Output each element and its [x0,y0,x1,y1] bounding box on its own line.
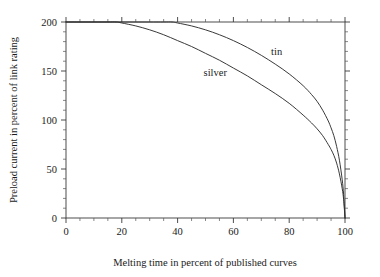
series-tin [66,22,345,218]
y-tick-label: 200 [41,17,57,28]
x-tick-label: 40 [172,226,183,237]
chart-figure: 020406080100050100150200 tinsilver Melti… [0,0,380,277]
chart-plot-area: 020406080100050100150200 tinsilver Melti… [0,0,380,277]
y-tick-label: 100 [41,115,57,126]
x-tick-label: 20 [117,226,128,237]
curve-label-silver: silver [204,67,228,78]
x-tick-label: 0 [63,226,68,237]
axis-frame [66,22,345,218]
x-tick-label: 100 [337,226,353,237]
x-tick-label: 80 [284,226,295,237]
x-tick-label: 60 [228,226,239,237]
x-axis-title: Melting time in percent of published cur… [113,257,297,268]
curve-label-tin: tin [271,46,283,57]
axis-ticks [61,17,350,223]
data-series-group [66,22,345,218]
y-tick-label: 0 [52,213,57,224]
y-tick-label: 50 [47,164,58,175]
y-tick-label: 150 [41,66,57,77]
y-axis-title: Preload current in percent of link ratin… [8,36,19,203]
series-silver [66,22,345,218]
